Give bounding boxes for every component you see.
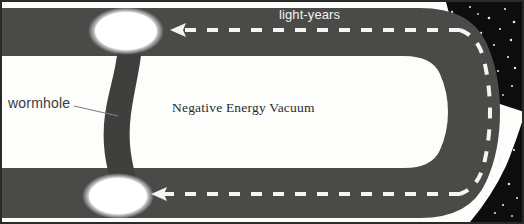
wormhole-diagram-figure: light-years wormhole Negative Energy Vac… xyxy=(0,0,524,224)
upper-wormhole-mouth xyxy=(88,7,164,55)
lower-wormhole-mouth xyxy=(82,173,154,219)
diagram-artwork xyxy=(0,0,524,224)
negative-energy-vacuum-region xyxy=(2,58,442,166)
